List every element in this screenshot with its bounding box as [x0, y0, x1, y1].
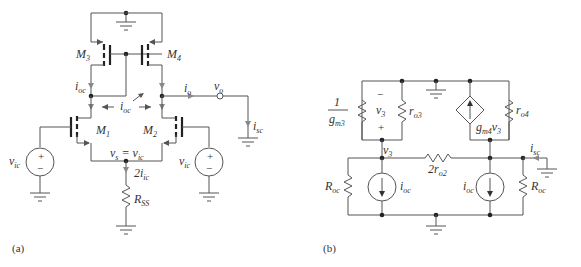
label-i-sc-b: isc [530, 141, 540, 157]
label-2i-ic: 2iic [134, 166, 150, 182]
label-v-s: vs = vic [110, 146, 144, 162]
ground-icon [426, 215, 446, 234]
ground-icon [426, 81, 446, 98]
transistor-m4 [142, 39, 162, 96]
label-roc-left: Roc [324, 179, 340, 195]
label-ioc-right: ioc [463, 179, 474, 195]
label-2ro2: 2ro2 [428, 162, 447, 178]
plus-sign: + [378, 121, 384, 133]
label-v-ic-right: vic [179, 154, 191, 170]
label-i-oc-left: ioc [75, 79, 86, 95]
label-r-ss: RSS [133, 192, 149, 208]
label-v3-node: v3 [383, 143, 392, 159]
label-ro3: ro3 [409, 104, 422, 120]
label-m2: M2 [142, 123, 157, 139]
plus-sign: + [38, 150, 44, 162]
label-v3-inner: v3 [376, 103, 385, 119]
label-v-ic-left: vic [9, 154, 21, 170]
resistor-rss [116, 161, 136, 234]
label-i-sc-a: isc [253, 119, 263, 135]
plus-sign: + [207, 150, 213, 162]
label-i-o: io [184, 81, 191, 97]
minus-sign: − [377, 88, 383, 100]
minus-sign: − [206, 162, 212, 174]
minus-sign: − [37, 162, 43, 174]
caption-a: (a) [12, 242, 25, 255]
ground-icon [238, 138, 258, 146]
label-m3: M3 [75, 47, 90, 63]
label-one: 1 [334, 95, 340, 109]
label-m1: M1 [95, 123, 110, 139]
figure-a: M3 M4 M1 M2 ioc ioc io vo isc vs = vic 2… [9, 11, 263, 255]
caption-b: (b) [323, 242, 336, 255]
figure-b: 1 gm3 − v3 + ro3 ro4 gm4v3 v3 2ro2 Roc i… [323, 79, 557, 255]
transistor-m2 [126, 96, 209, 161]
circuit-canvas: M3 M4 M1 M2 ioc ioc io vo isc vs = vic 2… [0, 0, 581, 267]
label-ro4: ro4 [516, 103, 529, 119]
label-gm3: gm3 [329, 112, 345, 128]
label-ioc-left: ioc [400, 179, 411, 195]
label-v-o: vo [214, 79, 223, 95]
label-gm4v3: gm4v3 [476, 120, 501, 136]
ground-icon [116, 13, 136, 30]
label-i-oc-mid: ioc [120, 99, 131, 115]
label-roc-right: Roc [530, 179, 546, 195]
label-m4: M4 [166, 47, 181, 63]
